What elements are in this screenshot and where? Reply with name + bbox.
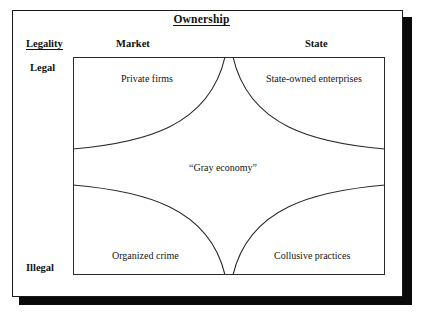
column-header-state: State	[305, 38, 328, 49]
row-header-illegal: Illegal	[26, 262, 54, 273]
curve-top-left	[73, 57, 225, 149]
cell-label-organized-crime: Organized crime	[112, 250, 179, 261]
column-axis-title-text: Ownership	[173, 13, 229, 26]
row-axis-title-text: Legality	[26, 38, 63, 50]
cell-label-gray-economy: “Gray economy”	[189, 162, 257, 173]
curve-bottom-left	[73, 185, 225, 275]
curve-top-right	[233, 57, 385, 149]
cell-label-collusive-practices: Collusive practices	[274, 250, 350, 261]
diagram-canvas: Ownership Legality Market State Legal Il…	[0, 0, 423, 318]
row-axis-title: Legality	[26, 38, 63, 49]
cell-label-private-firms: Private firms	[121, 73, 173, 84]
row-header-legal: Legal	[30, 62, 55, 73]
column-axis-title: Ownership	[0, 13, 403, 25]
column-header-market: Market	[116, 38, 150, 49]
cell-label-state-owned-enterprises: State-owned enterprises	[266, 73, 362, 84]
curve-bottom-right	[233, 185, 385, 275]
